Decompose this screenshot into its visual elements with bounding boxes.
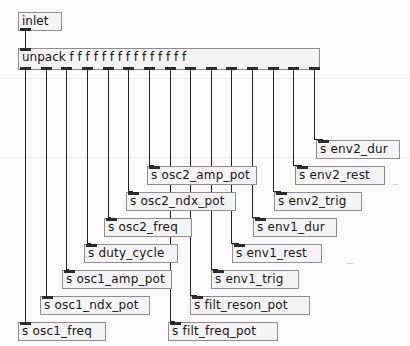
send-osc1-amp-pot-inlet-0[interactable] (64, 270, 75, 273)
unpack-outlet-11[interactable] (247, 67, 258, 70)
object-send-env2-rest[interactable]: s env2_rest (295, 166, 385, 185)
send-env2-rest-inlet-0[interactable] (297, 166, 308, 169)
object-send-osc1-ndx-pot[interactable]: s osc1_ndx_pot (40, 296, 150, 315)
send-filt-freq-pot-inlet-0[interactable] (170, 322, 181, 325)
patch-cord-to-env1-dur[interactable] (252, 70, 253, 218)
patch-cord-inlet-to-unpack[interactable] (25, 31, 26, 48)
patch-cord-to-osc1-ndx-pot[interactable] (46, 70, 47, 296)
object-send-filt-reson-pot[interactable]: s filt_reson_pot (190, 296, 310, 315)
capture-artifact-speck (393, 184, 398, 185)
send-osc1-freq-inlet-0[interactable] (20, 322, 31, 325)
object-send-osc2-freq[interactable]: s osc2_freq (104, 218, 192, 237)
send-osc2-ndx-pot-inlet-0[interactable] (128, 192, 139, 195)
patch-cord-to-osc2-ndx-pot[interactable] (128, 70, 129, 192)
unpack-outlet-9[interactable] (206, 67, 217, 70)
pd-patch-canvas[interactable]: inlet unpack f f f f f f f f f f f f f f… (0, 0, 410, 346)
unpack-outlet-14[interactable] (309, 67, 320, 70)
patch-cord-to-env1-rest[interactable] (231, 70, 232, 244)
patch-cord-to-duty-cycle[interactable] (87, 70, 88, 244)
send-osc1-ndx-pot-inlet-0[interactable] (42, 296, 53, 299)
capture-artifact-speck (347, 263, 353, 264)
unpack-outlet-0[interactable] (20, 67, 31, 70)
send-env1-trig-inlet-0[interactable] (213, 270, 224, 273)
patch-cord-to-osc2-amp-pot[interactable] (149, 70, 150, 166)
unpack-outlet-8[interactable] (185, 67, 196, 70)
patch-cord-to-env2-rest[interactable] (293, 70, 294, 166)
unpack-outlet-1[interactable] (41, 67, 52, 70)
unpack-outlet-4[interactable] (103, 67, 114, 70)
send-env2-trig-inlet-0[interactable] (276, 192, 287, 195)
inlet-outlet-0[interactable] (20, 28, 31, 31)
send-duty-cycle-inlet-0[interactable] (86, 244, 97, 247)
unpack-outlet-6[interactable] (144, 67, 155, 70)
patch-cord-to-env2-dur[interactable] (314, 70, 315, 140)
object-send-env1-dur[interactable]: s env1_dur (253, 218, 337, 237)
object-send-env1-rest[interactable]: s env1_rest (232, 244, 322, 263)
unpack-outlet-10[interactable] (226, 67, 237, 70)
patch-cord-to-osc2-freq[interactable] (108, 70, 109, 218)
send-filt-reson-pot-inlet-0[interactable] (192, 296, 203, 299)
send-osc2-amp-pot-inlet-0[interactable] (149, 166, 160, 169)
send-env1-dur-inlet-0[interactable] (255, 218, 266, 221)
unpack-outlet-5[interactable] (123, 67, 134, 70)
object-send-osc1-freq[interactable]: s osc1_freq (18, 322, 106, 341)
unpack-outlet-7[interactable] (165, 67, 176, 70)
object-send-env1-trig[interactable]: s env1_trig (211, 270, 299, 289)
object-inlet[interactable]: inlet (18, 12, 62, 31)
unpack-outlet-3[interactable] (82, 67, 93, 70)
send-osc2-freq-inlet-0[interactable] (106, 218, 117, 221)
object-send-filt-freq-pot[interactable]: s filt_freq_pot (168, 322, 278, 341)
unpack-outlet-2[interactable] (61, 67, 72, 70)
send-env2-dur-inlet-0[interactable] (318, 140, 329, 143)
unpack-inlet-0[interactable] (20, 48, 31, 51)
patch-cord-to-env2-trig[interactable] (273, 70, 274, 192)
object-unpack[interactable]: unpack f f f f f f f f f f f f f f f (18, 48, 320, 70)
capture-artifact-scanline (0, 78, 410, 79)
unpack-outlet-13[interactable] (288, 67, 299, 70)
object-send-osc2-ndx-pot[interactable]: s osc2_ndx_pot (126, 192, 236, 211)
send-env1-rest-inlet-0[interactable] (234, 244, 245, 247)
object-send-env2-dur[interactable]: s env2_dur (316, 140, 400, 159)
patch-cord-to-osc1-amp-pot[interactable] (66, 70, 67, 270)
object-send-osc2-amp-pot[interactable]: s osc2_amp_pot (147, 166, 257, 185)
object-send-env2-trig[interactable]: s env2_trig (274, 192, 362, 211)
object-send-osc1-amp-pot[interactable]: s osc1_amp_pot (62, 270, 172, 289)
unpack-outlet-12[interactable] (268, 67, 279, 70)
object-send-duty-cycle[interactable]: s duty_cycle (84, 244, 178, 263)
patch-cord-to-osc1-freq[interactable] (25, 70, 26, 322)
